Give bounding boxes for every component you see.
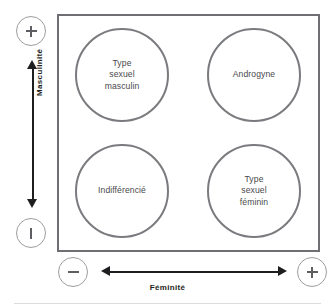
- minus-icon: [68, 271, 79, 272]
- gender-typology-figure: Type sexuel masculin Androgyne Indiffére…: [0, 0, 335, 308]
- quadrant-androgyne: Androgyne: [207, 28, 301, 122]
- arrow-right-icon: [278, 266, 287, 276]
- femininity-axis-arrow: [101, 265, 287, 279]
- masculinity-axis-label: Masculinité: [35, 49, 44, 96]
- quadrant-masculin: Type sexuel masculin: [75, 28, 169, 122]
- footer-divider: [14, 303, 321, 304]
- femininity-axis-label-wrap: Féminité: [0, 283, 335, 292]
- quadrant-androgyne-label: Androgyne: [233, 69, 275, 80]
- masculinity-low-marker: [16, 218, 46, 248]
- quadrant-feminin: Type sexuel féminin: [207, 144, 301, 238]
- axis-shaft: [108, 271, 280, 273]
- quadrant-masculin-label: Type sexuel masculin: [105, 58, 140, 92]
- quadrant-feminin-label: Type sexuel féminin: [240, 174, 268, 208]
- masculinity-high-marker: [16, 16, 46, 46]
- plus-icon: [30, 26, 31, 37]
- femininity-axis-label: Féminité: [150, 283, 186, 292]
- minus-icon: [30, 228, 31, 239]
- arrow-down-icon: [27, 199, 37, 208]
- plot-area: Type sexuel masculin Androgyne Indiffére…: [57, 14, 320, 252]
- quadrant-indifferencie-label: Indifférencié: [98, 185, 146, 196]
- quadrant-indifferencie: Indifférencié: [75, 144, 169, 238]
- axis-shaft: [32, 67, 34, 201]
- plus-icon: [311, 267, 312, 278]
